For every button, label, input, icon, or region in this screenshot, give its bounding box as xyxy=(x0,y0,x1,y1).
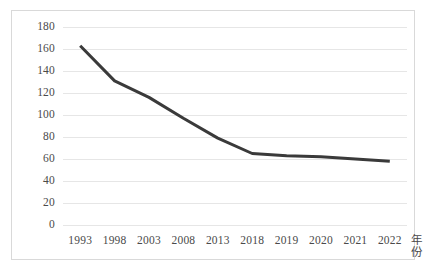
gridlines-group xyxy=(63,27,407,225)
y-axis-tick-label: 40 xyxy=(21,175,55,186)
y-axis-tick-label: 180 xyxy=(21,21,55,32)
x-axis-title: 年份 xyxy=(411,234,428,258)
y-axis-tick-label: 160 xyxy=(21,43,55,54)
y-axis-tick-label: 100 xyxy=(21,109,55,120)
y-axis-tick-label: 120 xyxy=(21,87,55,98)
series-line-group xyxy=(80,46,390,162)
line-chart: 020406080100120140160180 199319982003200… xyxy=(0,0,428,273)
y-axis-tick-label: 60 xyxy=(21,153,55,164)
x-axis-tick-label: 2022 xyxy=(370,234,410,246)
chart-canvas xyxy=(0,0,428,273)
y-axis-tick-label: 20 xyxy=(21,197,55,208)
y-axis-tick-label: 140 xyxy=(21,65,55,76)
y-axis-tick-label: 0 xyxy=(21,219,55,230)
y-axis-tick-label: 80 xyxy=(21,131,55,142)
